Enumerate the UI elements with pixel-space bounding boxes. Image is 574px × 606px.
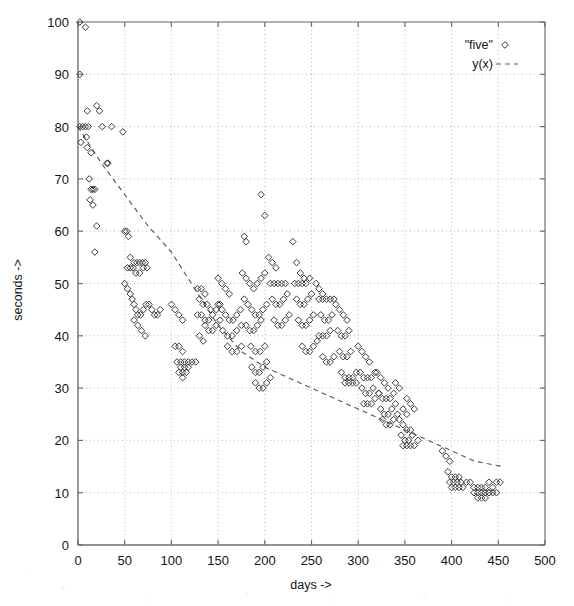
x-tick-label: 450 (487, 553, 509, 568)
y-tick-label: 50 (55, 277, 69, 292)
x-tick-label: 200 (254, 553, 276, 568)
y-tick-label: 10 (55, 486, 69, 501)
legend-label: y(x) (472, 57, 493, 71)
y-tick-label: 30 (55, 381, 69, 396)
x-tick-label: 100 (161, 553, 183, 568)
y-tick-label: 100 (47, 15, 69, 30)
x-tick-label: 500 (534, 553, 556, 568)
y-tick-label: 0 (62, 538, 69, 553)
x-tick-label: 300 (347, 553, 369, 568)
x-tick-label: 0 (74, 553, 81, 568)
x-tick-label: 150 (207, 553, 229, 568)
y-tick-label: 70 (55, 172, 69, 187)
y-tick-label: 80 (55, 120, 69, 135)
y-tick-label: 60 (55, 224, 69, 239)
y-tick-label: 40 (55, 329, 69, 344)
chart-figure: 050100150200250300350400450500 010203040… (0, 0, 574, 606)
x-tick-label: 250 (301, 553, 323, 568)
x-tick-label: 50 (117, 553, 131, 568)
y-tick-label: 90 (55, 67, 69, 82)
scatter-plot-canvas: 050100150200250300350400450500 010203040… (0, 0, 574, 606)
plot-background (0, 0, 574, 606)
x-tick-label: 400 (441, 553, 463, 568)
x-axis-title: days -> (290, 578, 331, 592)
y-axis-title: seconds -> (11, 259, 25, 321)
y-tick-label: 20 (55, 433, 69, 448)
x-tick-label: 350 (394, 553, 416, 568)
legend-label: "five" (465, 38, 493, 52)
